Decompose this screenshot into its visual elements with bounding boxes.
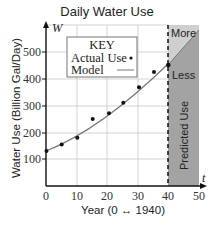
- x-tick-40: 40: [162, 189, 174, 203]
- x-var-label: t: [202, 171, 206, 185]
- x-tick-50: 50: [193, 189, 205, 203]
- legend-dot-icon: [129, 56, 132, 59]
- legend: KEY Actual Use Model: [67, 37, 137, 77]
- y-tick-400: 400: [23, 72, 41, 86]
- legend-model-label: Model: [71, 63, 104, 77]
- y-tick-200: 200: [23, 126, 41, 140]
- legend-title: KEY: [89, 38, 115, 52]
- more-label: More: [171, 27, 196, 39]
- x-tick-10: 10: [71, 189, 83, 203]
- x-tick-20: 20: [101, 189, 113, 203]
- y-axis-label: Water Use (Billion Gal/Day): [10, 38, 22, 178]
- predicted-region: More Less Predicted Use: [168, 25, 199, 186]
- x-axis-label: Year (0 ↔ 1940): [81, 204, 165, 216]
- chart: More Less Predicted Use W t 500 400 300 …: [0, 0, 214, 225]
- y-axis-arrow-icon: [43, 21, 49, 28]
- y-tick-100: 100: [23, 152, 41, 166]
- less-label: Less: [172, 69, 196, 81]
- x-tick-30: 30: [132, 189, 144, 203]
- y-tick-500: 500: [23, 45, 41, 59]
- predicted-use-label: Predicted Use: [178, 101, 190, 170]
- y-tick-300: 300: [23, 99, 41, 113]
- x-tick-0: 0: [43, 189, 49, 203]
- y-var-label: W: [52, 21, 64, 35]
